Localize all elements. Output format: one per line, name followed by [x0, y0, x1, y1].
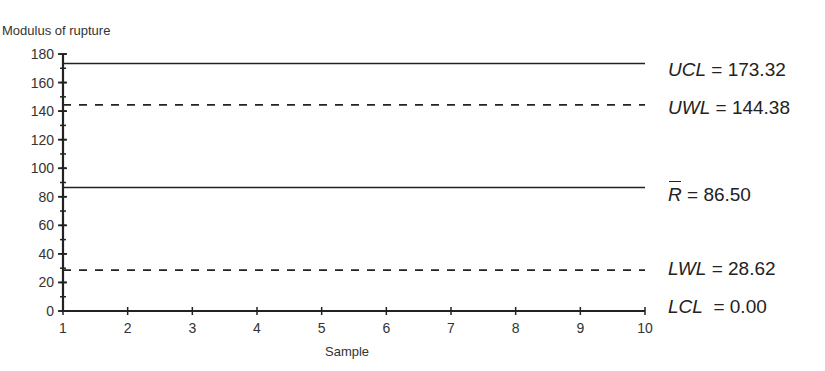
- x-tick-label: 7: [447, 320, 455, 336]
- y-tick-label: 120: [31, 132, 55, 148]
- y-tick-label: 140: [31, 103, 55, 119]
- y-tick-label: 0: [46, 303, 54, 319]
- y-tick-label: 160: [31, 75, 55, 91]
- x-tick-label: 4: [253, 320, 261, 336]
- y-tick-label: 20: [38, 274, 54, 290]
- ucl-label: UCL = 173.32: [668, 59, 786, 81]
- rbar-label: R = 86.50: [668, 184, 751, 206]
- x-tick-label: 2: [124, 320, 132, 336]
- x-tick-label: 5: [318, 320, 326, 336]
- lwl-label: LWL = 28.62: [668, 258, 776, 280]
- x-tick-label: 6: [382, 320, 390, 336]
- lcl-label: LCL = 0.00: [668, 296, 767, 318]
- x-axis-title: Sample: [325, 344, 369, 359]
- y-tick-label: 100: [31, 160, 55, 176]
- uwl-label: UWL = 144.38: [668, 97, 790, 119]
- y-tick-label: 180: [31, 46, 55, 62]
- x-tick-label: 1: [59, 320, 67, 336]
- y-tick-label: 60: [38, 217, 54, 233]
- x-tick-label: 9: [576, 320, 584, 336]
- x-tick-label: 8: [512, 320, 520, 336]
- x-tick-label: 10: [637, 320, 653, 336]
- y-tick-label: 40: [38, 246, 54, 262]
- x-tick-label: 3: [188, 320, 196, 336]
- y-tick-label: 80: [38, 189, 54, 205]
